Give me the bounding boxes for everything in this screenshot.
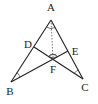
segment-be <box>11 51 68 82</box>
label-d: D <box>24 38 32 50</box>
geometry-figure: A B C D E F <box>0 0 98 104</box>
label-b: B <box>6 85 13 97</box>
point-labels: A B C D E F <box>6 1 88 97</box>
label-e: E <box>72 45 79 57</box>
angle-mark-a <box>47 27 56 29</box>
segment-af-dashed <box>51 20 53 58</box>
label-f: F <box>50 63 56 75</box>
angle-mark-b <box>17 73 20 78</box>
label-c: C <box>81 81 88 93</box>
label-a: A <box>47 1 55 13</box>
